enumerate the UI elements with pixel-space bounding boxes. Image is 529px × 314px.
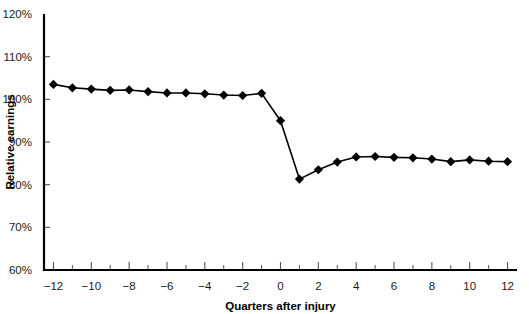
x-tick-label: 2 bbox=[315, 280, 321, 292]
chart-background bbox=[0, 0, 529, 314]
x-tick-label: 0 bbox=[277, 280, 283, 292]
x-tick-label: 12 bbox=[501, 280, 514, 292]
relative-earnings-line-chart: 120%110%100%90%80%70%60% −12−10−8−6−4−20… bbox=[0, 0, 529, 314]
x-tick-label: −10 bbox=[82, 280, 102, 292]
x-tick-label: −2 bbox=[236, 280, 249, 292]
y-axis-title: Relative earnings bbox=[4, 94, 16, 189]
x-tick-label: 4 bbox=[353, 280, 360, 292]
chart-container: 120%110%100%90%80%70%60% −12−10−8−6−4−20… bbox=[0, 0, 529, 314]
x-tick-label: −6 bbox=[160, 280, 173, 292]
x-tick-label: −4 bbox=[198, 280, 212, 292]
y-tick-label: 70% bbox=[9, 221, 32, 233]
y-tick-label: 110% bbox=[3, 51, 32, 63]
x-tick-label: −12 bbox=[44, 280, 64, 292]
y-tick-label: 120% bbox=[3, 8, 32, 20]
x-tick-label: 10 bbox=[463, 280, 476, 292]
x-axis-title: Quarters after injury bbox=[225, 300, 336, 312]
x-tick-label: 8 bbox=[429, 280, 435, 292]
x-tick-label: −8 bbox=[123, 280, 136, 292]
y-tick-label: 60% bbox=[9, 264, 32, 276]
x-tick-label: 6 bbox=[391, 280, 397, 292]
